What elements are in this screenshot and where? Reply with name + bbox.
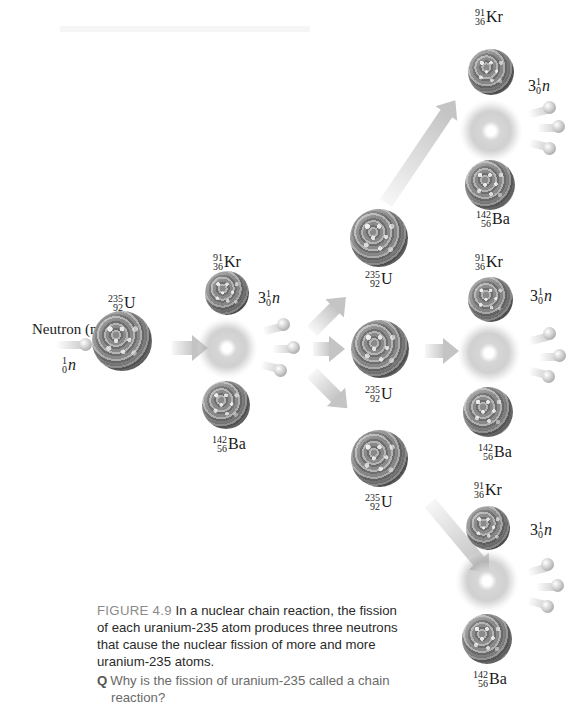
caption-question: QWhy is the fission of uranium-235 calle… [97, 672, 407, 706]
krypton-nucleus-icon [466, 506, 510, 550]
krypton-nucleus-icon [468, 277, 513, 322]
page-bleed-through [60, 26, 310, 32]
barium-nucleus-icon [202, 381, 250, 429]
barium-nucleus-icon [462, 614, 512, 664]
neutron-icon [277, 318, 290, 331]
uranium-label-3: 23592U [365, 385, 393, 403]
neutron-icon [541, 558, 554, 571]
neutron-symbol: 10n [62, 356, 76, 374]
arrow-icon [375, 93, 466, 210]
uranium-nucleus-icon [350, 209, 408, 267]
figure-caption: FIGURE 4.9 In a nuclear chain reaction, … [97, 602, 407, 706]
neutrons-released-label: 310n [530, 287, 552, 305]
krypton-label: 9136Kr [475, 8, 503, 26]
fission-flash-icon [197, 318, 257, 378]
neutron-icon [287, 341, 300, 354]
krypton-label: 9136Kr [474, 481, 502, 499]
krypton-nucleus-icon [205, 271, 249, 315]
uranium-nucleus-icon [351, 430, 408, 487]
uranium-nucleus-icon [92, 311, 152, 371]
barium-label: 14256Ba [212, 435, 246, 453]
uranium-nucleus-icon [351, 320, 409, 378]
fission-flash-icon [460, 100, 522, 162]
figure-label: FIGURE 4.9 [97, 603, 172, 618]
fission-flash-icon [458, 322, 520, 384]
arrow-icon [303, 288, 355, 340]
neutron-icon [274, 364, 287, 377]
krypton-label: 9136Kr [213, 253, 241, 271]
neutron-icon [543, 101, 556, 114]
arrow-icon [303, 364, 357, 418]
barium-nucleus-icon [463, 387, 513, 437]
barium-nucleus-icon [465, 160, 515, 210]
neutron-icon [552, 120, 565, 133]
uranium-label-1: 23592U [108, 294, 136, 312]
arrow-icon [425, 338, 459, 364]
barium-label: 14256Ba [476, 210, 510, 228]
neutron-icon [542, 370, 555, 383]
neutrons-released-label: 310n [258, 289, 280, 307]
neutron-icon [541, 600, 554, 613]
barium-label: 14256Ba [478, 443, 512, 461]
neutron-icon [551, 579, 564, 592]
fission-flash-icon [456, 550, 518, 612]
krypton-nucleus-icon [468, 49, 514, 95]
arrow-icon [313, 336, 345, 362]
neutron-icon [543, 142, 556, 155]
neutron-icon [553, 349, 566, 362]
incoming-neutron-icon [79, 338, 92, 351]
uranium-label-2: 23592U [365, 270, 393, 288]
neutrons-released-label: 310n [528, 77, 550, 95]
question-marker: Q [97, 673, 107, 688]
neutrons-released-label: 310n [530, 521, 552, 539]
krypton-label: 9136Kr [475, 253, 503, 271]
barium-label: 14256Ba [473, 670, 507, 688]
neutron-icon [543, 327, 556, 340]
question-text: Why is the fission of uranium-235 called… [110, 673, 389, 705]
caption-body: FIGURE 4.9 In a nuclear chain reaction, … [97, 602, 407, 670]
uranium-label-4: 23592U [365, 493, 393, 511]
